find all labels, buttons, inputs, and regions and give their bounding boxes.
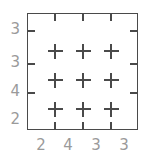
plus-marker (104, 73, 119, 88)
plus-marker (48, 73, 63, 88)
left-border-tick (28, 30, 35, 32)
right-border-tick (130, 30, 137, 32)
plus-marker (76, 102, 91, 117)
y-axis-tick-label: 4 (0, 84, 20, 99)
plus-marker (76, 44, 91, 59)
bottom-border-tick (82, 122, 84, 129)
plus-marker (48, 44, 63, 59)
plot-frame (27, 13, 138, 130)
left-border-tick (28, 92, 35, 94)
top-border-tick (54, 14, 56, 21)
x-axis-tick-label: 4 (58, 138, 78, 153)
plot-panel: 3 3 4 2 2 4 3 3 (0, 0, 147, 164)
plus-marker (104, 102, 119, 117)
plus-marker (76, 73, 91, 88)
y-axis-tick-label: 2 (0, 112, 20, 127)
y-axis-tick-label: 3 (0, 55, 20, 70)
top-border-tick (82, 14, 84, 21)
bottom-border-tick (110, 122, 112, 129)
top-border-tick (110, 14, 112, 21)
plus-marker (104, 44, 119, 59)
x-axis-tick-label: 2 (31, 138, 51, 153)
right-border-tick (130, 63, 137, 65)
right-border-tick (130, 92, 137, 94)
plus-marker (48, 102, 63, 117)
x-axis-tick-label: 3 (114, 138, 134, 153)
y-axis-tick-label: 3 (0, 22, 20, 37)
bottom-border-tick (54, 122, 56, 129)
left-border-tick (28, 63, 35, 65)
x-axis-tick-label: 3 (86, 138, 106, 153)
